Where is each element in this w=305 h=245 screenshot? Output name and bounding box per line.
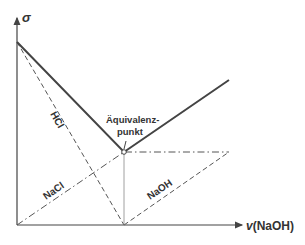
equivalence-label-1: Äquivalenz-	[106, 114, 159, 125]
equivalence-pointer	[124, 141, 126, 149]
y-axis-label: σ	[22, 10, 32, 25]
hcl-label: HCl	[48, 110, 66, 131]
titration-diagram: σ v(NaOH) Äquivalenz- punkt HCl NaCl NaO…	[0, 0, 305, 245]
x-axis-label: v(NaOH)	[246, 219, 294, 233]
nacl-label: NaCl	[41, 180, 66, 202]
equivalence-point-marker	[122, 150, 127, 155]
hcl-line	[17, 42, 124, 225]
equivalence-label-2: punkt	[117, 126, 144, 137]
naoh-line	[124, 152, 229, 225]
naoh-label: NaOH	[145, 177, 174, 202]
